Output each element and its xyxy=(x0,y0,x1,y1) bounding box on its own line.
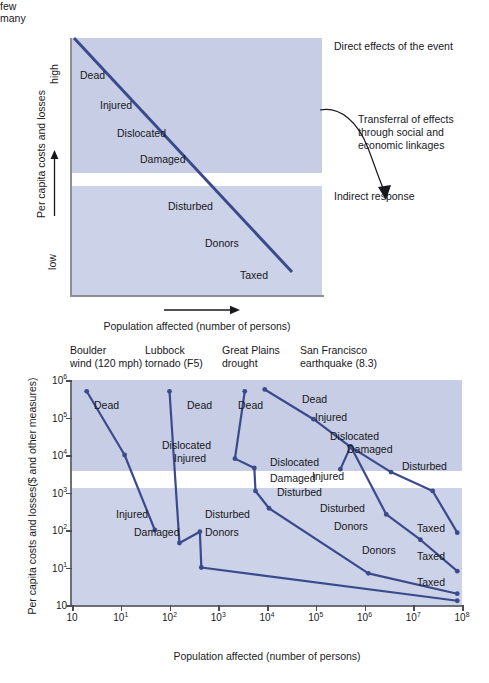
series-point-marker xyxy=(384,512,389,517)
panel-b-y-axis-title: Per capita costs and losses($ and other … xyxy=(26,346,38,646)
series-point-marker xyxy=(455,569,460,574)
panel-a-trend-line xyxy=(72,38,322,295)
panel-b-x-tick-mark xyxy=(267,605,269,611)
panel-a-x-few-label: few xyxy=(0,0,489,12)
panel-b-x-tick-label: 105 xyxy=(308,612,323,623)
panel-a-y-axis: Per capita costs and losses high low xyxy=(16,38,62,295)
panel-b-y-tick-label: 105 xyxy=(52,412,67,423)
panel-b-x-tick-label: 107 xyxy=(406,612,421,623)
panel-b-point-label: Injured xyxy=(312,470,344,482)
panel-b-point-label: Dead xyxy=(238,399,263,411)
panel-b-point-label: Dead xyxy=(302,393,327,405)
panel-b-point-label: Disturbed xyxy=(205,508,250,520)
panel-conceptual-schematic: Per capita costs and losses high low Dea… xyxy=(0,0,489,340)
panel-b-y-tick-label: 101 xyxy=(52,562,67,573)
panel-a-stage-label: Donors xyxy=(205,238,239,250)
series-point-marker xyxy=(177,541,182,546)
panel-a-y-axis-title: Per capita costs and losses xyxy=(35,69,47,239)
series-point-marker xyxy=(455,591,460,596)
series-point-marker xyxy=(242,389,247,394)
series-point-marker xyxy=(253,489,258,494)
panel-b-x-tick-mark xyxy=(170,605,172,611)
panel-b-y-tick-label: 103 xyxy=(52,487,67,498)
annotation-transferral-line2: through social and xyxy=(358,126,444,138)
series-point-marker xyxy=(389,470,394,475)
series-point-marker xyxy=(262,387,267,392)
panel-a-stage-label: Dislocated xyxy=(117,128,166,140)
panel-a-stage-label: Injured xyxy=(100,100,132,112)
event-header: Lubbocktornado (F5) xyxy=(145,344,203,369)
panel-b-point-label: Disturbed xyxy=(402,460,447,472)
panel-b-point-label: Donors xyxy=(205,526,239,538)
panel-a-axis-bottom xyxy=(70,295,324,297)
panel-b-point-label: Damaged xyxy=(134,526,180,538)
event-header-line1: Great Plains xyxy=(222,344,280,357)
event-header-line1: Boulder xyxy=(70,344,142,357)
panel-b-point-label: Disturbed xyxy=(320,502,365,514)
panel-a-y-axis-arrow-icon xyxy=(49,150,60,216)
panel-b-point-label: Dead xyxy=(187,399,212,411)
panel-a-y-high-label: high xyxy=(48,64,60,84)
series-point-marker xyxy=(455,530,460,535)
event-header-line2: wind (120 mph) xyxy=(70,357,142,370)
panel-b-point-label: Dislocated xyxy=(330,430,379,442)
panel-b-x-tick-mark xyxy=(413,605,415,611)
panel-b-point-label: Taxed xyxy=(417,550,445,562)
series-point-marker xyxy=(233,456,238,461)
series-point-marker xyxy=(167,389,172,394)
panel-a-plot-area: DeadInjuredDislocatedDamagedDisturbedDon… xyxy=(72,38,322,295)
panel-b-point-label: Donors xyxy=(362,544,396,556)
panel-b-point-label: Disturbed xyxy=(277,486,322,498)
figure-root: Per capita costs and losses high low Dea… xyxy=(0,0,489,683)
panel-b-y-tick-label: 106 xyxy=(52,375,67,386)
series-point-marker xyxy=(84,389,89,394)
panel-b-x-tick-label: 102 xyxy=(162,612,177,623)
panel-b-point-label: Injured xyxy=(315,411,347,423)
event-header: Boulderwind (120 mph) xyxy=(70,344,142,369)
event-header: San Franciscoearthquake (8.3) xyxy=(300,344,377,369)
event-header: Great Plainsdrought xyxy=(222,344,280,369)
panel-b-point-label: Injured xyxy=(174,452,206,464)
series-point-marker xyxy=(197,529,202,534)
panel-a-stage-label: Dead xyxy=(80,70,105,82)
panel-b-point-label: Damaged xyxy=(347,443,393,455)
series-point-marker xyxy=(430,489,435,494)
panel-b-x-tick-mark xyxy=(316,605,318,611)
series-point-marker xyxy=(122,453,127,458)
panel-b-point-label: Taxed xyxy=(417,576,445,588)
panel-b-plot-area: 10610510410310210110 1010110210310410510… xyxy=(72,380,462,605)
panel-a-stage-label: Disturbed xyxy=(168,201,213,213)
panel-b-x-tick-mark xyxy=(365,605,367,611)
series-point-marker xyxy=(252,466,257,471)
panel-b-x-tick-mark xyxy=(218,605,220,611)
event-header-line2: earthquake (8.3) xyxy=(300,357,377,370)
panel-b-series-lines xyxy=(72,380,462,605)
panel-b-y-tick-label: 102 xyxy=(52,525,67,536)
panel-a-y-low-label: low xyxy=(46,254,58,270)
panel-b-point-label: Dislocated xyxy=(162,439,211,451)
event-header-line2: drought xyxy=(222,357,280,370)
series-point-marker xyxy=(366,571,371,576)
panel-b-point-label: Damaged xyxy=(270,472,316,484)
annotation-indirect-response: Indirect response xyxy=(334,190,415,202)
panel-a-x-axis-arrow-icon xyxy=(164,305,240,315)
event-header-line1: Lubbock xyxy=(145,344,203,357)
panel-a-stage-label: Taxed xyxy=(240,270,268,282)
panel-b-x-tick-label: 108 xyxy=(455,612,470,623)
event-header-line2: tornado (F5) xyxy=(145,357,203,370)
annotation-direct-effects: Direct effects of the event xyxy=(334,40,453,52)
panel-b-x-tick-mark xyxy=(72,605,74,611)
panel-b-point-label: Taxed xyxy=(417,522,445,534)
panel-b-x-tick-mark xyxy=(462,605,464,611)
panel-b-point-label: Injured xyxy=(116,508,148,520)
series-point-marker xyxy=(455,598,460,603)
panel-b-point-label: Dead xyxy=(94,399,119,411)
panel-b-x-tick-label: 101 xyxy=(113,612,128,623)
annotation-transferral-line1: Transferral of effects xyxy=(358,113,454,125)
annotation-transferral-line3: economic linkages xyxy=(358,139,444,151)
series-point-marker xyxy=(267,506,272,511)
panel-b-x-tick-label: 10 xyxy=(66,612,77,623)
series-point-marker xyxy=(418,537,423,542)
panel-b-x-tick-label: 106 xyxy=(357,612,372,623)
panel-b-x-tick-mark xyxy=(121,605,123,611)
